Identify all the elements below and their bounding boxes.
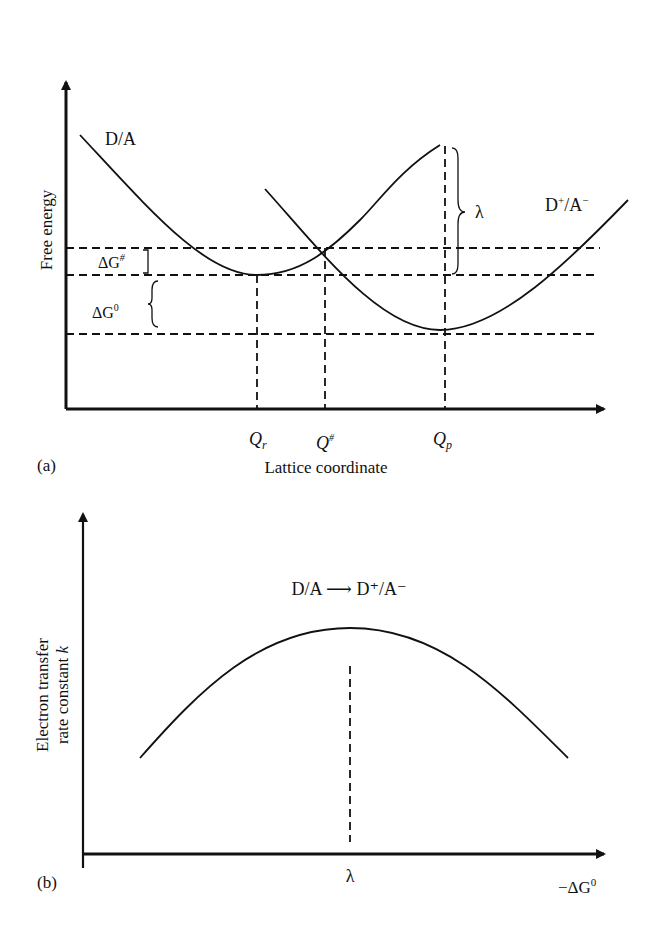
dg-sharp-label: ΔG#	[98, 252, 126, 271]
dg0-brace	[148, 281, 158, 327]
tick-qr: Qr	[249, 429, 267, 452]
reactant-label: D/A	[105, 129, 136, 149]
y-axis-label-a: Free energy	[37, 189, 56, 270]
x-axis-label-b: −ΔG0	[558, 876, 597, 897]
dg0-label: ΔG0	[92, 302, 119, 321]
panel-b: Electron transfer rate constant k D/A ⟶ …	[33, 514, 604, 897]
panel-label-b: (b)	[37, 873, 57, 892]
dg-sharp-bracket	[143, 250, 148, 273]
rate-curve	[140, 628, 568, 758]
product-label: D+/A−	[545, 194, 588, 215]
marcus-theory-figure: Free energy D/A D+/A− ΔG# ΔG0 λ	[0, 0, 656, 935]
tick-lambda: λ	[346, 866, 355, 886]
panel-a: Free energy D/A D+/A− ΔG# ΔG0 λ	[37, 82, 628, 477]
tick-qsharp: Q#	[316, 432, 335, 453]
reaction-label: D/A ⟶ D⁺/A⁻	[292, 579, 407, 599]
y-axis-label-b-line2: rate constant k	[53, 645, 72, 744]
panel-label-a: (a)	[37, 456, 56, 475]
lambda-brace	[452, 148, 465, 274]
y-axis-label-b: Electron transfer	[33, 638, 52, 752]
lambda-label-a: λ	[475, 202, 484, 222]
tick-qp: Qp	[433, 429, 452, 452]
x-axis-label-a: Lattice coordinate	[264, 458, 387, 477]
reactant-curve-da	[80, 135, 440, 275]
